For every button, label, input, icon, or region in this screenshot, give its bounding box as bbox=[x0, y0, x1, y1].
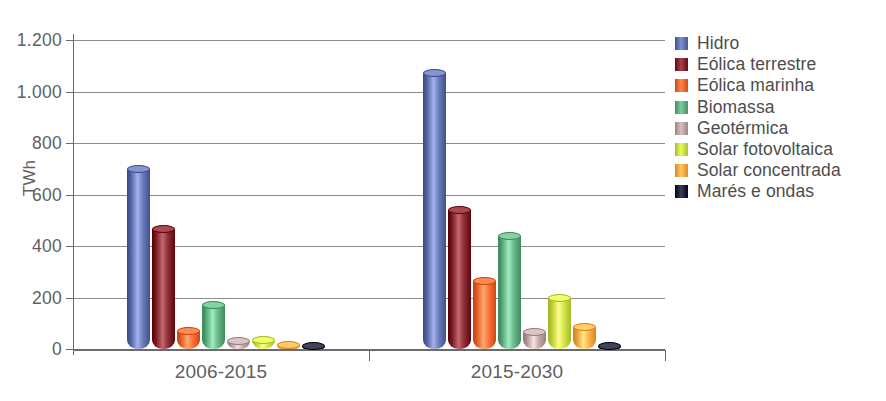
y-axis-tick bbox=[66, 349, 74, 350]
y-tick-label: 1.000 bbox=[17, 81, 62, 102]
legend-color-swatch bbox=[675, 101, 688, 114]
y-axis-tick bbox=[66, 246, 74, 247]
bar-top-cap bbox=[448, 206, 471, 214]
x-tick-label: 2015-2030 bbox=[369, 361, 665, 383]
legend-color-swatch bbox=[675, 37, 688, 50]
y-axis-tick bbox=[66, 40, 74, 41]
bar-body bbox=[498, 236, 521, 349]
bar bbox=[498, 236, 521, 349]
y-tick-label: 800 bbox=[32, 133, 62, 154]
legend-color-swatch bbox=[675, 185, 688, 198]
bar bbox=[127, 169, 150, 349]
bar bbox=[523, 332, 546, 349]
bar-top-cap bbox=[598, 342, 621, 350]
legend-item[interactable]: Marés e ondas bbox=[675, 181, 880, 202]
legend-item[interactable]: Eólica terrestre bbox=[675, 54, 880, 75]
bar bbox=[227, 341, 250, 349]
y-axis-tick bbox=[66, 195, 74, 196]
legend-color-swatch bbox=[675, 164, 688, 177]
bar bbox=[277, 345, 300, 349]
bar bbox=[573, 327, 596, 349]
bar bbox=[202, 305, 225, 349]
bar bbox=[473, 281, 496, 349]
y-axis-title: TWh bbox=[20, 160, 40, 196]
chart-container: 02004006008001.0001.200 TWh 2006-2015201… bbox=[0, 0, 886, 401]
bar bbox=[302, 346, 325, 349]
plot-area bbox=[73, 40, 665, 349]
y-axis-tick bbox=[66, 92, 74, 93]
legend-color-swatch bbox=[675, 79, 688, 92]
legend-item[interactable]: Solar concentrada bbox=[675, 160, 880, 181]
x-axis-group-tick bbox=[665, 350, 666, 361]
legend-label: Solar concentrada bbox=[697, 160, 841, 181]
y-axis-tick bbox=[66, 298, 74, 299]
bar-body bbox=[473, 281, 496, 349]
legend-item[interactable]: Hidro bbox=[675, 33, 880, 54]
bar-top-cap bbox=[127, 165, 150, 173]
y-axis-tick bbox=[66, 143, 74, 144]
bar bbox=[598, 346, 621, 349]
legend-item[interactable]: Solar fotovoltaica bbox=[675, 139, 880, 160]
bar bbox=[252, 340, 275, 349]
legend-color-swatch bbox=[675, 143, 688, 156]
bar-top-cap bbox=[252, 336, 275, 344]
y-axis-tick-labels: 02004006008001.0001.200 bbox=[0, 0, 62, 401]
bar bbox=[152, 229, 175, 349]
legend-color-swatch bbox=[675, 58, 688, 71]
bar-top-cap bbox=[302, 342, 325, 350]
bar-body bbox=[423, 73, 446, 349]
bar bbox=[448, 210, 471, 349]
legend-color-swatch bbox=[675, 122, 688, 135]
legend: HidroEólica terrestreEólica marinhaBioma… bbox=[675, 33, 880, 203]
bar bbox=[423, 73, 446, 349]
bar-body bbox=[202, 305, 225, 349]
bar-body bbox=[152, 229, 175, 349]
legend-label: Geotérmica bbox=[697, 118, 788, 139]
legend-label: Eólica terrestre bbox=[697, 54, 816, 75]
x-axis-group-tick bbox=[369, 350, 370, 361]
bar bbox=[177, 331, 200, 349]
bar bbox=[548, 298, 571, 350]
y-tick-label: 200 bbox=[32, 287, 62, 308]
bar-body bbox=[127, 169, 150, 349]
legend-label: Marés e ondas bbox=[697, 181, 814, 202]
legend-label: Hidro bbox=[697, 33, 739, 54]
legend-item[interactable]: Geotérmica bbox=[675, 118, 880, 139]
y-tick-label: 1.200 bbox=[17, 30, 62, 51]
legend-label: Biomassa bbox=[697, 97, 775, 118]
legend-label: Solar fotovoltaica bbox=[697, 139, 833, 160]
legend-item[interactable]: Biomassa bbox=[675, 97, 880, 118]
bar-top-cap bbox=[177, 327, 200, 335]
bar-top-cap bbox=[473, 277, 496, 285]
y-tick-label: 0 bbox=[52, 339, 62, 360]
legend-item[interactable]: Eólica marinha bbox=[675, 75, 880, 96]
bar-body bbox=[448, 210, 471, 349]
bar-top-cap bbox=[548, 294, 571, 302]
legend-label: Eólica marinha bbox=[697, 75, 814, 96]
bar-series-group bbox=[73, 40, 665, 349]
bar-body bbox=[548, 298, 571, 350]
x-tick-label: 2006-2015 bbox=[73, 361, 369, 383]
y-tick-label: 400 bbox=[32, 236, 62, 257]
